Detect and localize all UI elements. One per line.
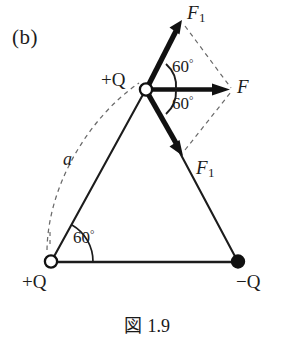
charge-label-apex-text: +Q <box>101 69 125 90</box>
force-label-lower-symbol: F <box>196 157 208 178</box>
side-length-label: a <box>63 150 72 168</box>
figure-container: (b) +Q +Q −Q F1 F1 F 60° 60° 60° a 図 1.9 <box>0 0 294 350</box>
figure-caption-number: 1.9 <box>143 316 170 336</box>
figure-caption: 図 1.9 <box>0 311 294 337</box>
force-label-upper-subscript: 1 <box>199 10 206 25</box>
vertex-marker-apex <box>140 83 152 95</box>
degree-icon: ° <box>90 228 94 240</box>
physics-diagram-svg <box>0 0 294 350</box>
charge-label-bottom-right-text: −Q <box>236 271 260 292</box>
charge-label-apex: +Q <box>101 70 125 89</box>
resultant-force-arrowhead <box>212 84 230 96</box>
force-label-lower-subscript: 1 <box>208 165 215 180</box>
angle-label-lower-value: 60 <box>172 94 189 113</box>
triangle-side-left <box>51 89 146 262</box>
charge-label-bottom-left-text: +Q <box>22 271 46 292</box>
charge-label-bottom-right: −Q <box>236 272 260 291</box>
vertex-marker-bottom-left <box>45 255 57 267</box>
charge-label-bottom-left: +Q <box>22 272 46 291</box>
angle-label-vertex-value: 60 <box>73 228 90 247</box>
force-label-upper: F1 <box>187 3 206 24</box>
angle-label-lower: 60° <box>172 95 193 112</box>
panel-label: (b) <box>12 27 38 48</box>
force-label-lower: F1 <box>196 158 215 179</box>
force-label-upper-symbol: F <box>187 2 199 23</box>
angle-label-vertex: 60° <box>73 229 94 246</box>
side-length-arc <box>47 83 139 250</box>
resultant-force-label: F <box>237 77 249 96</box>
degree-icon: ° <box>189 57 193 69</box>
vertex-marker-bottom-right <box>232 255 245 268</box>
figure-caption-mark: 図 <box>124 315 143 336</box>
angle-label-upper: 60° <box>172 58 193 75</box>
force-vector-lower-arrowhead <box>170 140 184 156</box>
degree-icon: ° <box>189 94 193 106</box>
angle-label-upper-value: 60 <box>172 57 189 76</box>
